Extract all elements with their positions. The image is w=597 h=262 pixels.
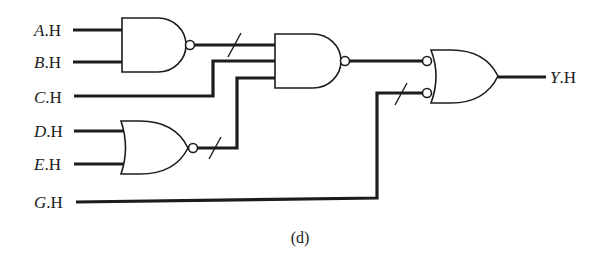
label-input-a: A.H [33,21,61,40]
inversion-bubble [341,57,350,66]
label-input-c: C.H [34,88,62,107]
logic-circuit-diagram: A.H B.H C.H D.H E.H G.H Y.H (d) [0,0,597,262]
or-gate-4-inverted-inputs [423,50,499,103]
figure-caption: (d) [291,229,310,247]
nor-gate-2 [121,121,198,174]
inversion-bubble [423,89,432,98]
wire-g2-out [198,78,275,148]
label-input-e: E.H [33,155,61,174]
inversion-bubble [189,144,198,153]
label-input-g: G.H [34,193,63,212]
inversion-bubble [423,57,432,66]
label-output-y: Y.H [550,68,576,87]
nand-gate-3 [275,34,350,88]
label-input-b: B.H [34,53,61,72]
label-input-d: D.H [33,122,63,141]
nand-gate-1 [122,18,195,72]
inversion-bubble [186,41,195,50]
